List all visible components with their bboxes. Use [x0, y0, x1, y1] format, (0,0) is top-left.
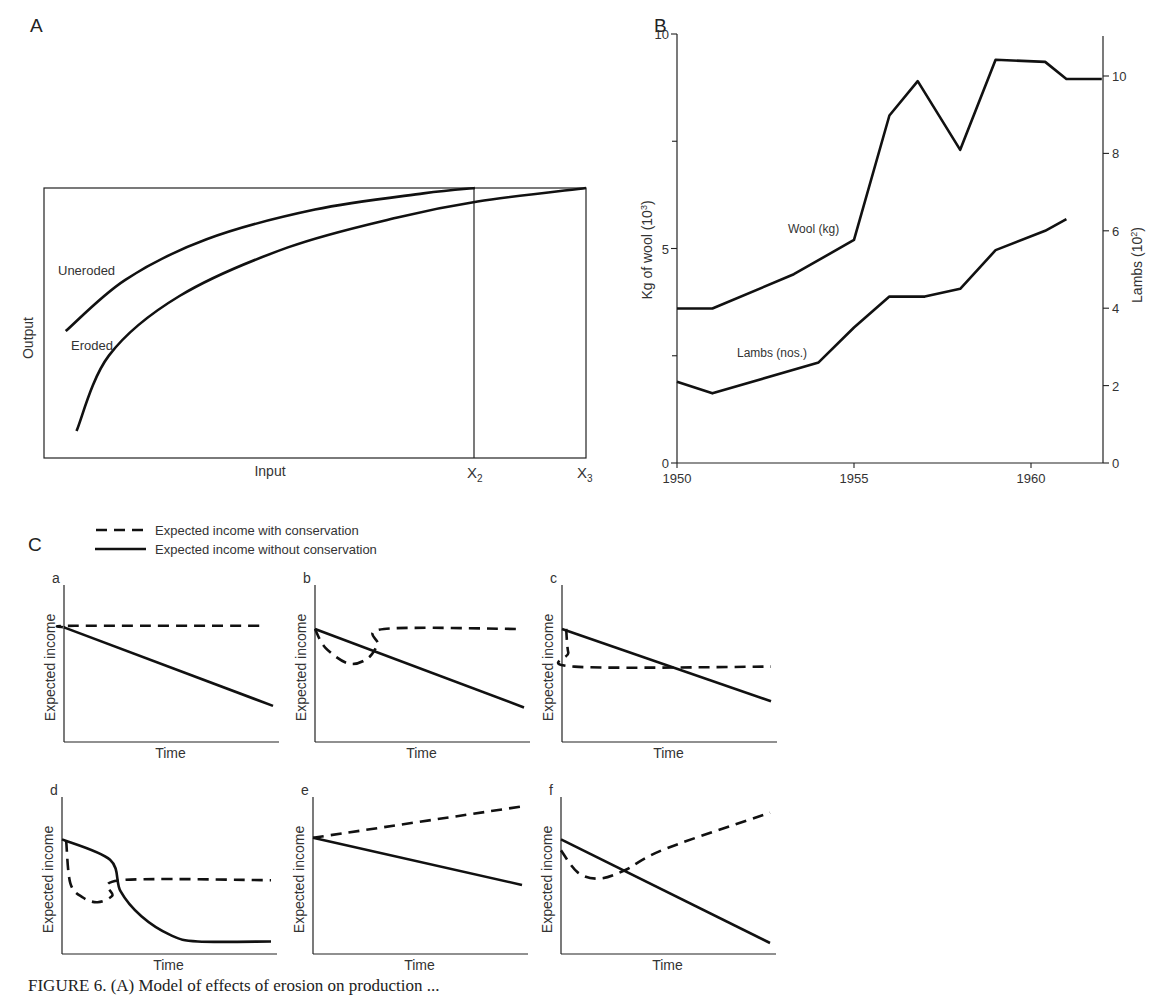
lambs-line [677, 219, 1066, 393]
panel-a: A Output Input X2 X3 Uneroded Eroded [20, 15, 593, 484]
panel-a-frame [44, 188, 586, 458]
b-right-tick-label: 6 [1112, 224, 1119, 239]
b-x-tick-label: 1955 [840, 471, 869, 486]
income-without-conservation-line [64, 627, 273, 706]
a-xlabel: Input [254, 463, 285, 479]
subplot-letter: f [549, 782, 553, 798]
subplot-c: cExpected incomeTime [540, 570, 777, 761]
subplot-letter: d [50, 782, 58, 798]
panel-c: C Expected income with conservation Expe… [28, 523, 777, 973]
panel-b: B 05100246810195019551960 Kg of wool (10… [639, 15, 1145, 486]
subplot-xlabel: Time [404, 957, 435, 973]
lambs-series-label: Lambs (nos.) [737, 346, 807, 360]
subplot-letter: b [303, 570, 311, 586]
subplot-letter: e [301, 782, 309, 798]
income-without-conservation-line [62, 839, 271, 942]
income-with-conservation-line [57, 626, 263, 628]
subplot-ylabel: Expected income [291, 826, 307, 934]
c-legend: Expected income with conservation Expect… [95, 523, 377, 557]
subplot-ylabel: Expected income [42, 614, 58, 722]
a-ylabel: Output [20, 317, 36, 359]
eroded-label: Eroded [71, 338, 113, 353]
subplot-xlabel: Time [653, 745, 684, 761]
income-with-conservation-line [561, 813, 770, 879]
subplot-ylabel: Expected income [539, 826, 555, 934]
subplot-ylabel: Expected income [40, 826, 56, 934]
b-x-tick-label: 1960 [1017, 471, 1046, 486]
b-left-tick-label: 0 [662, 456, 669, 471]
b-ticks: 05100246810195019551960 [655, 27, 1127, 486]
b-left-tick-label: 10 [655, 27, 669, 42]
subplot-ylabel: Expected income [540, 614, 556, 722]
b-right-tick-label: 2 [1112, 379, 1119, 394]
income-with-conservation-line [315, 628, 520, 664]
b-right-tick-label: 4 [1112, 301, 1119, 316]
income-without-conservation-line [313, 838, 522, 885]
b-right-tick-label: 0 [1112, 456, 1119, 471]
b-ylabel-right: Lambs (102) [1129, 227, 1145, 303]
income-without-conservation-line [561, 839, 770, 943]
uneroded-label: Uneroded [58, 263, 115, 278]
income-with-conservation-line [558, 629, 771, 668]
b-x-tick-label: 1950 [663, 471, 692, 486]
income-without-conservation-line [562, 629, 771, 701]
subplot-letter: c [550, 570, 557, 586]
b-right-tick-label: 10 [1112, 69, 1126, 84]
subplot-e: eExpected incomeTime [291, 782, 528, 973]
a-x2-label: X2 [467, 464, 483, 484]
eroded-curve [77, 188, 586, 431]
wool-line [677, 60, 1102, 309]
subplot-xlabel: Time [153, 957, 184, 973]
b-ylabel-left: Kg of wool (103) [639, 200, 655, 299]
subplot-letter: a [52, 570, 60, 586]
legend-solid-label: Expected income without conservation [155, 542, 377, 557]
subplot-f: fExpected incomeTime [539, 782, 776, 973]
figure-caption: FIGURE 6. (A) Model of effects of erosio… [28, 976, 439, 996]
subplot-xlabel: Time [406, 745, 437, 761]
legend-dashed-label: Expected income with conservation [155, 523, 359, 538]
subplot-d: dExpected incomeTime [40, 782, 277, 973]
panel-c-letter: C [28, 534, 42, 555]
c-subplots: aExpected incomeTimebExpected incomeTime… [40, 570, 777, 973]
income-with-conservation-line [313, 806, 522, 837]
subplot-ylabel: Expected income [293, 614, 309, 722]
uneroded-curve [66, 188, 475, 331]
wool-series-label: Wool (kg) [788, 222, 839, 236]
a-x3-label: X3 [577, 464, 593, 484]
subplot-xlabel: Time [155, 745, 186, 761]
b-left-tick-label: 5 [662, 242, 669, 257]
income-without-conservation-line [315, 629, 524, 708]
panel-a-letter: A [30, 15, 43, 36]
b-right-tick-label: 8 [1112, 146, 1119, 161]
subplot-a: aExpected incomeTime [42, 570, 279, 761]
income-with-conservation-line [66, 841, 271, 902]
subplot-xlabel: Time [652, 957, 683, 973]
subplot-b: bExpected incomeTime [293, 570, 530, 761]
